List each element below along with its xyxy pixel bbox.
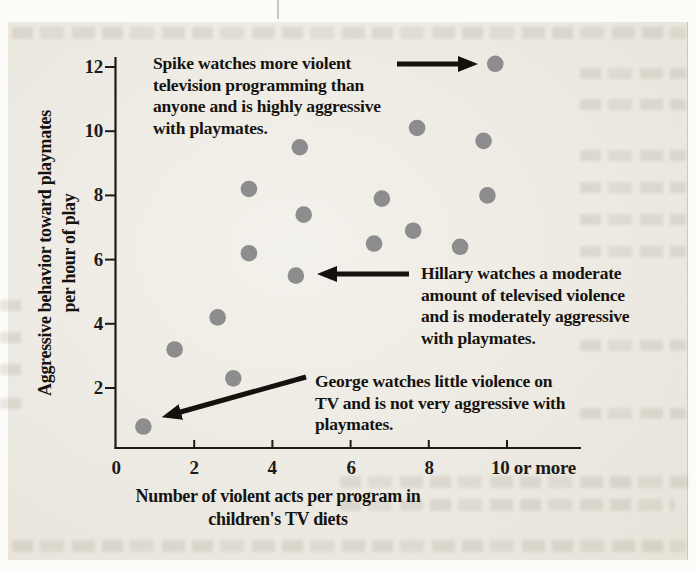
data-point (409, 120, 426, 137)
data-point (452, 238, 469, 255)
hillary-annotation-line: amount of televised violence (421, 285, 629, 307)
data-point (295, 206, 312, 223)
hillary-annotation: Hillary watches a moderate amount of tel… (421, 263, 629, 349)
spike-annotation-line: television programming than (153, 75, 381, 97)
x-tick-label-2: 2 (189, 457, 198, 479)
data-point (209, 309, 226, 326)
george-annotation-line: TV and is not very aggressive with (315, 393, 565, 415)
x-axis-title-line-2: children's TV diets (136, 508, 421, 531)
x-tick-label-0: 0 (111, 457, 120, 479)
data-point (475, 133, 492, 150)
data-point (166, 341, 183, 358)
george-annotation: George watches little violence on TV and… (315, 371, 565, 436)
data-point (135, 418, 152, 435)
x-axis-title-line-1: Number of violent acts per program in (136, 485, 421, 508)
x-tick-label-8: 8 (424, 457, 433, 479)
spike-annotation-line: Spike watches more violent (153, 53, 381, 75)
george-annotation-line: George watches little violence on (315, 371, 565, 393)
hillary-annotation-line: Hillary watches a moderate (421, 263, 629, 285)
data-point (241, 181, 258, 198)
george-annotation-line: playmates. (315, 414, 565, 436)
hillary-annotation-line: and is moderately aggressive (421, 306, 629, 328)
data-point (366, 235, 383, 252)
spike-annotation-line: with playmates. (153, 118, 381, 140)
x-tick-label-10-or-more: 10 or more (491, 457, 576, 479)
data-point (487, 55, 504, 72)
data-point (225, 370, 242, 387)
y-axis-title-line-2: per hour of play (57, 83, 81, 423)
scanned-textbook-figure: { "figure": { "page_background": "#edeae… (0, 0, 697, 571)
hillary-annotation-line: with playmates. (421, 328, 629, 350)
data-point (405, 222, 422, 239)
data-point (291, 139, 308, 156)
data-point (241, 245, 258, 262)
george-arrow (177, 377, 306, 413)
x-axis-title: Number of violent acts per program in ch… (136, 485, 421, 530)
data-point (479, 187, 496, 204)
spike-annotation: Spike watches more violent television pr… (153, 53, 381, 139)
y-axis-title: Aggressive behavior toward playmates per… (33, 83, 81, 423)
x-tick-label-4: 4 (267, 457, 276, 479)
data-point (374, 190, 391, 207)
y-tick-label-12: 12 (60, 56, 103, 78)
spike-annotation-line: anyone and is highly aggressive (153, 96, 381, 118)
y-axis-title-line-1: Aggressive behavior toward playmates (33, 83, 57, 423)
x-tick-label-6: 6 (346, 457, 355, 479)
data-point (288, 267, 305, 284)
